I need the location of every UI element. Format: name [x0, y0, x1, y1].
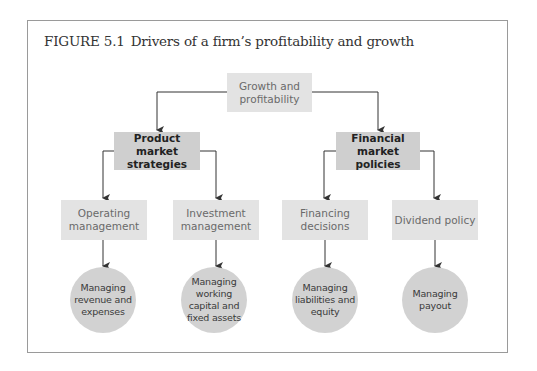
node-label: Dividend policy — [395, 214, 476, 227]
node-managing-working-capital: Managing working capital and fixed asset… — [181, 267, 247, 333]
node-financial-market-policies: Financial market policies — [336, 132, 420, 170]
node-label: Managing liabilities and equity — [292, 282, 358, 318]
node-label: Managing working capital and fixed asset… — [181, 276, 247, 324]
node-managing-payout: Managing payout — [402, 267, 468, 333]
figure-caption: Drivers of a firm’s profitability and gr… — [131, 33, 414, 49]
node-investment-management: Investment management — [173, 200, 259, 240]
node-label: Investment management — [173, 207, 259, 233]
node-financing-decisions: Financing decisions — [282, 200, 368, 240]
node-label: Managing revenue and expenses — [70, 282, 136, 318]
node-product-market-strategies: Product market strategies — [114, 132, 200, 170]
figure-number: FIGURE 5.1 — [44, 33, 125, 49]
node-growth-and-profitability: Growth and profitability — [227, 73, 312, 112]
node-managing-revenue-and-expenses: Managing revenue and expenses — [70, 267, 136, 333]
node-label: Managing payout — [402, 288, 468, 312]
figure-title: FIGURE 5.1Drivers of a firm’s profitabil… — [44, 33, 414, 49]
node-label: Financial market policies — [336, 132, 420, 171]
node-label: Growth and profitability — [227, 80, 312, 106]
node-label: Financing decisions — [282, 207, 368, 233]
node-managing-liabilities-and-equity: Managing liabilities and equity — [292, 267, 358, 333]
node-operating-management: Operating management — [61, 200, 147, 240]
node-label: Product market strategies — [114, 132, 200, 171]
node-label: Operating management — [61, 207, 147, 233]
node-dividend-policy: Dividend policy — [392, 200, 478, 240]
